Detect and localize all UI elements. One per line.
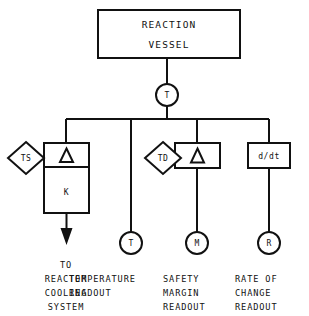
caption-4-line-3: READOUT	[235, 302, 278, 312]
caption-rate-of-change-readout: RATE OF CHANGE READOUT	[235, 274, 278, 312]
indicator-tag-t: T	[128, 239, 133, 248]
controller-output-arrowhead	[61, 228, 73, 245]
caption-2-line-1: TEMPERATURE	[69, 274, 136, 284]
branch-safety-margin: TD M	[145, 142, 220, 254]
caption-1-line-1: TO	[60, 260, 72, 270]
caption-safety-margin-readout: SAFETY MARGIN READOUT	[163, 274, 206, 312]
branch-rate-of-change: d/dt R	[248, 143, 290, 254]
caption-4-line-2: CHANGE	[235, 288, 271, 298]
caption-3-line-1: SAFETY	[163, 274, 199, 284]
derivative-label: d/dt	[258, 152, 280, 161]
setpoint-label-ts: TS	[21, 154, 31, 163]
signal-bus	[66, 119, 269, 232]
caption-to-reactor-cooling-system: TO REACTOR COOLING SYSTEM	[45, 260, 88, 312]
reaction-vessel-box	[98, 10, 240, 58]
caption-temperature-readout: TEMPERATURE READOUT	[69, 274, 136, 298]
caption-1-line-4: SYSTEM	[48, 302, 84, 312]
temperature-transmitter: T	[156, 58, 178, 119]
caption-2-line-2: READOUT	[69, 288, 112, 298]
caption-3-line-2: MARGIN	[163, 288, 199, 298]
branch-temperature-readout: T	[120, 232, 142, 254]
branch-control: K TS	[8, 142, 89, 245]
reaction-vessel-label-line1: REACTION	[142, 19, 197, 30]
caption-4-line-1: RATE OF	[235, 274, 278, 284]
setpoint-label-td: TD	[158, 154, 168, 163]
indicator-tag-m: M	[194, 239, 199, 248]
indicator-tag-r: R	[266, 239, 271, 248]
reaction-vessel-label-line2: VESSEL	[149, 39, 190, 50]
caption-3-line-3: READOUT	[163, 302, 206, 312]
reaction-vessel-block: REACTION VESSEL	[98, 10, 240, 58]
transmitter-tag: T	[164, 91, 169, 100]
diagram-canvas: REACTION VESSEL T K	[0, 0, 309, 316]
process-control-diagram: REACTION VESSEL T K	[0, 0, 309, 316]
controller-label-k: K	[64, 188, 69, 197]
